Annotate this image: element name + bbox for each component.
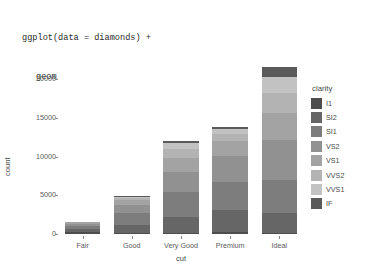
bar-segment xyxy=(163,233,198,234)
x-tick-mark xyxy=(181,236,182,239)
y-axis-ticks: 05000100001500020000 xyxy=(8,58,56,273)
bar-segment xyxy=(114,233,149,234)
legend-item: SI1 xyxy=(311,125,369,139)
bar-segment xyxy=(163,192,198,217)
legend-item-label: VVS1 xyxy=(326,185,344,194)
legend-item: I1 xyxy=(311,96,369,110)
x-tick-label: Premium xyxy=(216,241,245,250)
legend-swatch-icon xyxy=(311,184,322,195)
legend-swatch-icon xyxy=(311,155,322,166)
bar-segment xyxy=(212,156,247,182)
bar-segment xyxy=(262,93,297,113)
bar-segment xyxy=(114,213,149,225)
bar-segment xyxy=(114,205,149,213)
x-tick-label: Fair xyxy=(76,241,88,250)
bar-segment xyxy=(163,149,198,159)
bar-segment xyxy=(262,180,297,213)
ggplot-figure: count 05000100001500020000 FairGoodVery … xyxy=(0,58,372,273)
bar-segment xyxy=(163,217,198,233)
x-tick-mark xyxy=(230,236,231,239)
legend-swatch-icon xyxy=(311,98,322,109)
x-tick-mark xyxy=(132,236,133,239)
bar-very-good[interactable] xyxy=(163,141,198,234)
legend-item-label: VS2 xyxy=(326,142,340,151)
bar-segment xyxy=(212,134,247,141)
bar-good[interactable] xyxy=(114,196,149,234)
x-axis-title: cut xyxy=(58,254,304,263)
legend-item: VS1 xyxy=(311,154,369,168)
legend-item: IF xyxy=(311,197,369,211)
bar-ideal[interactable] xyxy=(262,67,297,234)
bar-segment xyxy=(163,158,198,172)
legend-items: I1SI2SI1VS2VS1VVS2VVS1IF xyxy=(311,96,369,211)
bar-segment xyxy=(262,77,297,93)
plot-panel xyxy=(58,60,304,234)
legend-item: VVS1 xyxy=(311,182,369,196)
x-tick-mark xyxy=(83,236,84,239)
legend-swatch-icon xyxy=(311,112,322,123)
y-tick-mark xyxy=(55,234,58,235)
legend-item-label: SI2 xyxy=(326,113,337,122)
bar-segment xyxy=(212,210,247,233)
y-tick-label: 15000 xyxy=(12,113,56,122)
x-tick-mark xyxy=(279,236,280,239)
bar-premium[interactable] xyxy=(212,127,247,234)
legend-item-label: I1 xyxy=(326,99,332,108)
legend-item: SI2 xyxy=(311,110,369,124)
legend-item-label: SI1 xyxy=(326,127,337,136)
legend-item: VVS2 xyxy=(311,168,369,182)
bar-segment xyxy=(114,225,149,233)
bar-segment xyxy=(65,232,100,234)
bar-segment xyxy=(262,233,297,234)
legend-swatch-icon xyxy=(311,126,322,137)
legend-item-label: IF xyxy=(326,199,332,208)
legend: clarity I1SI2SI1VS2VS1VVS2VVS1IF xyxy=(311,84,369,211)
legend-item: VS2 xyxy=(311,139,369,153)
y-tick-label: 0 xyxy=(12,229,56,238)
y-tick-label: 10000 xyxy=(12,152,56,161)
legend-swatch-icon xyxy=(311,141,322,152)
bar-segment xyxy=(212,141,247,156)
legend-swatch-icon xyxy=(311,170,322,181)
bar-segment xyxy=(262,67,297,76)
y-tick-label: 5000 xyxy=(12,190,56,199)
legend-swatch-icon xyxy=(311,198,322,209)
code-line-1: ggplot(data = diamonds) + xyxy=(22,32,284,45)
legend-title: clarity xyxy=(312,84,369,93)
bar-segment xyxy=(262,140,297,179)
x-tick-label: Very Good xyxy=(164,241,198,250)
y-tick-label: 20000 xyxy=(12,74,56,83)
bar-segment xyxy=(163,172,198,192)
bar-segment xyxy=(212,232,247,234)
x-tick-label: Ideal xyxy=(272,241,288,250)
bar-segment xyxy=(262,213,297,233)
x-tick-label: Good xyxy=(123,241,141,250)
legend-item-label: VVS2 xyxy=(326,171,344,180)
bar-segment xyxy=(262,113,297,141)
bar-segment xyxy=(212,182,247,210)
legend-item-label: VS1 xyxy=(326,156,340,165)
bar-fair[interactable] xyxy=(65,222,100,234)
